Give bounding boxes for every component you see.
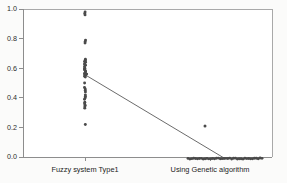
data-point	[83, 82, 86, 85]
y-tick-label-2: 0.4	[7, 93, 17, 102]
x-category-label-genetic: Using Genetic algorithm	[171, 165, 250, 174]
data-point	[84, 42, 87, 45]
y-tick-label-4: 0.8	[7, 34, 17, 43]
data-point	[84, 76, 87, 79]
y-tick-label-1: 0.2	[7, 123, 17, 132]
data-point	[83, 98, 86, 101]
y-tick-label-3: 0.6	[7, 64, 17, 73]
chart-figure: 0.0 0.2 0.4 0.6 0.8 1.0 Fuzzy system Typ…	[0, 0, 287, 183]
data-point	[84, 90, 87, 93]
data-point	[261, 157, 264, 160]
data-point	[84, 13, 87, 16]
data-point-outlier	[204, 124, 207, 127]
plot-area-background	[23, 9, 272, 157]
data-point	[83, 107, 86, 110]
scatter-plot: 0.0 0.2 0.4 0.6 0.8 1.0 Fuzzy system Typ…	[0, 0, 287, 183]
y-tick-label-5: 1.0	[7, 4, 17, 13]
y-tick-label-0: 0.0	[7, 152, 17, 161]
x-category-label-fuzzy: Fuzzy system Type1	[51, 165, 118, 174]
data-point	[84, 123, 87, 126]
